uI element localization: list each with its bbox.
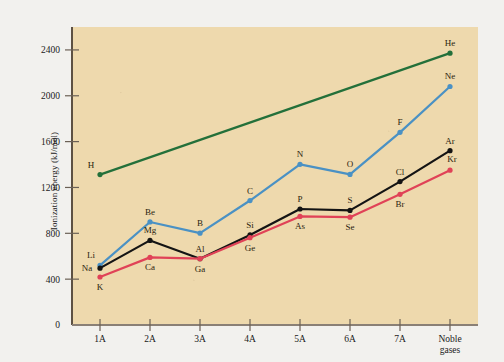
data-point-Se — [347, 215, 352, 220]
data-point-Ge — [247, 235, 252, 240]
x-axis-tick-label: 2A — [144, 334, 156, 344]
point-label-Si: Si — [246, 220, 254, 230]
point-label-Br: Br — [396, 199, 405, 209]
point-label-Kr: Kr — [447, 154, 457, 164]
point-label-Ar: Ar — [445, 136, 455, 146]
point-label-Be: Be — [145, 207, 155, 217]
data-point-He — [447, 51, 452, 56]
point-label-O: O — [347, 159, 354, 169]
point-label-P: P — [297, 194, 302, 204]
data-point-Cl — [397, 179, 402, 184]
data-point-F — [397, 130, 402, 135]
x-axis: 1A2A3A4A5A6A7ANoblegases — [72, 319, 478, 355]
point-label-Se: Se — [346, 222, 355, 232]
data-point-Na — [97, 266, 102, 271]
point-label-C: C — [247, 186, 253, 196]
point-label-Ne: Ne — [445, 71, 456, 81]
x-axis-tick-label: 6A — [344, 334, 356, 344]
data-point-S — [347, 208, 352, 213]
data-point-H — [97, 172, 102, 177]
point-label-F: F — [397, 117, 402, 127]
data-point-P — [297, 206, 302, 211]
point-label-As: As — [295, 221, 305, 231]
data-point-As — [297, 214, 302, 219]
x-axis-tick-label: 3A — [194, 334, 206, 344]
ionization-energy-chart-figure: 04008001200160020002400 1A2A3A4A5A6A7ANo… — [0, 0, 504, 362]
data-point-Be — [147, 219, 152, 224]
point-label-B: B — [197, 218, 203, 228]
point-label-S: S — [347, 195, 352, 205]
point-label-Al: Al — [196, 244, 205, 254]
x-axis-tick-label: gases — [440, 345, 461, 355]
x-axis-tick-label: 4A — [244, 334, 256, 344]
point-label-He: He — [445, 38, 456, 48]
point-label-Na: Na — [82, 263, 93, 273]
data-point-K — [97, 274, 102, 279]
data-point-Br — [397, 192, 402, 197]
data-point-Kr — [447, 168, 452, 173]
y-axis-tick-label: 0 — [55, 320, 60, 330]
x-axis-tick-label: 5A — [294, 334, 306, 344]
x-axis-tick-label: Noble — [438, 334, 461, 344]
data-point-Ar — [447, 148, 452, 153]
point-label-Ca: Ca — [145, 262, 155, 272]
point-label-Ga: Ga — [195, 264, 206, 274]
data-point-Mg — [147, 238, 152, 243]
data-point-C — [247, 198, 252, 203]
x-axis-tick-label: 1A — [94, 334, 106, 344]
point-label-Li: Li — [87, 250, 95, 260]
data-point-O — [347, 172, 352, 177]
y-axis-tick-label: 2400 — [41, 45, 60, 55]
data-point-Ne — [447, 84, 452, 89]
point-label-N: N — [297, 149, 304, 159]
point-label-Cl: Cl — [396, 167, 405, 177]
x-axis-tick-label: 7A — [394, 334, 406, 344]
point-label-Ge: Ge — [245, 243, 256, 253]
ionization-energy-line-chart: 04008001200160020002400 1A2A3A4A5A6A7ANo… — [0, 0, 504, 362]
plot-background — [72, 27, 478, 325]
point-label-K: K — [97, 282, 104, 292]
data-point-N — [297, 162, 302, 167]
data-point-Ga — [197, 256, 202, 261]
data-point-B — [197, 231, 202, 236]
data-point-Ca — [147, 255, 152, 260]
y-axis-title: Ionization energy (kJ/mol) — [49, 81, 59, 281]
point-label-Mg: Mg — [144, 225, 157, 235]
point-label-H: H — [88, 160, 95, 170]
